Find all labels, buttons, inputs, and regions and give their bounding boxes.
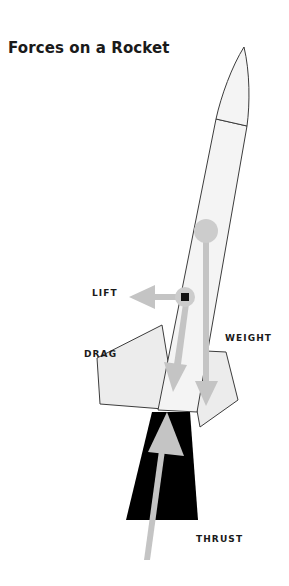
drag-label: DRAG [84, 349, 117, 359]
forces-on-a-rocket-diagram: Forces on a Rocket LIFT DRAG WEIGHT [0, 0, 289, 586]
center-of-gravity-marker [175, 287, 195, 307]
lift-label: LIFT [92, 288, 118, 298]
weight-label: WEIGHT [225, 333, 272, 343]
thrust-label: THRUST [196, 534, 243, 544]
page-title: Forces on a Rocket [8, 39, 170, 57]
center-of-pressure-marker [194, 219, 218, 243]
